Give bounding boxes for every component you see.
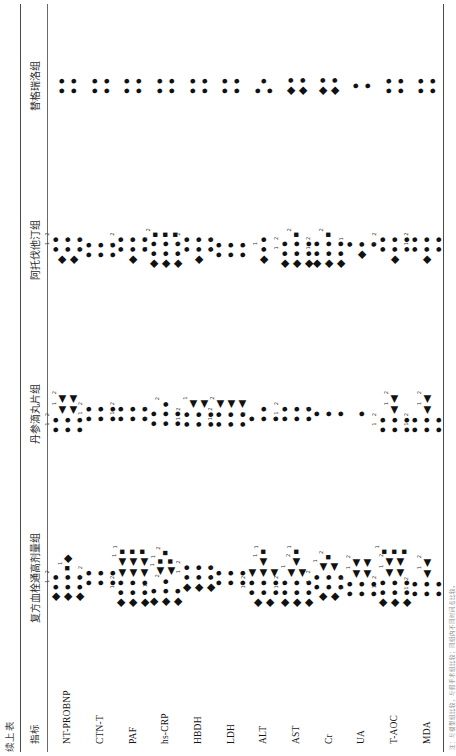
- symbol-stack: ●●: [121, 78, 144, 85]
- cell-symbols: ●●●●: [116, 4, 149, 168]
- circle-marker-icon: ●: [219, 88, 230, 95]
- marker-glyph: ●: [323, 584, 334, 591]
- symbol-stack: ◀2◀: [57, 395, 78, 403]
- marker-glyph: ●: [311, 411, 322, 418]
- marker-glyph: ◀: [128, 558, 138, 566]
- symbol-stack: ◀2◀: [384, 558, 405, 566]
- marker-glyph: ◆: [323, 260, 334, 268]
- marker-glyph: ●: [115, 580, 126, 587]
- cell-symbols: ●●●●: [214, 4, 247, 168]
- marker-glyph: ●: [291, 250, 302, 257]
- marker-glyph: ●: [121, 78, 132, 85]
- circle-marker-icon: ●: [415, 88, 426, 95]
- marker-glyph: ●: [389, 427, 400, 434]
- symbol-stack: ●1●●: [279, 416, 314, 423]
- circle-marker-icon: ●1: [213, 252, 224, 259]
- marker-glyph: ●: [317, 77, 328, 84]
- marker-glyph: ●: [291, 416, 302, 423]
- marker-glyph: ◀: [247, 569, 257, 577]
- circle-marker-icon: ●1: [279, 416, 290, 423]
- table-cell: ●1●●●2●●: [84, 168, 117, 332]
- circle-marker-icon: ●2: [181, 411, 192, 418]
- circle-marker-icon: ●: [362, 83, 373, 90]
- marker-glyph: ●: [231, 88, 242, 95]
- circle-marker-icon: ●2: [311, 241, 322, 248]
- marker-glyph: ◆: [160, 260, 171, 268]
- cell-symbols: ●1●●●2●●●2: [149, 332, 182, 496]
- marker-glyph: ◆: [279, 260, 290, 268]
- marker-glyph: ●: [377, 589, 388, 596]
- triangle-marker-icon: ◀: [117, 569, 127, 577]
- square-marker-icon: ■2: [161, 550, 170, 555]
- symbol-stack: ■1: [292, 549, 301, 554]
- indicator-label: CTN-T: [84, 660, 117, 752]
- circle-marker-icon: ●2: [50, 574, 61, 581]
- marker-glyph: ●: [160, 411, 171, 418]
- circle-marker-icon: ●: [225, 421, 236, 428]
- circle-marker-icon: ●: [291, 589, 302, 596]
- marker-glyph: ●: [115, 406, 126, 413]
- marker-glyph: ●: [433, 591, 444, 598]
- marker-glyph: ●: [246, 589, 257, 596]
- marker-glyph: ●: [148, 420, 159, 427]
- marker-glyph: ●: [213, 242, 224, 249]
- indicator-label: MDA: [410, 660, 443, 752]
- triangle-marker-icon: ◀2: [422, 395, 432, 403]
- circle-marker-icon: ●: [356, 581, 367, 588]
- square-marker-icon: ■1: [63, 566, 72, 571]
- marker-glyph: ◀: [139, 569, 149, 577]
- marker-glyph: ●: [213, 570, 224, 577]
- circle-marker-icon: ●: [395, 78, 406, 85]
- marker-glyph: ●: [279, 580, 290, 587]
- marker-glyph: ●: [193, 421, 204, 428]
- symbol-stack: ◆: [193, 256, 204, 264]
- marker-glyph: ●: [311, 574, 322, 581]
- column-header-indicator: 指标: [21, 660, 47, 752]
- triangle-marker-icon: ◀1: [318, 563, 328, 571]
- circle-marker-icon: ●: [433, 581, 444, 588]
- marker-glyph: ●: [395, 88, 406, 95]
- symbol-stack: ◀1◀: [57, 406, 78, 414]
- circle-marker-icon: ●: [101, 78, 112, 85]
- marker-glyph: ●: [246, 416, 257, 423]
- circle-marker-icon: ●: [127, 580, 138, 587]
- cell-symbols: ●●●●: [84, 4, 117, 168]
- triangle-marker-icon: ◀1: [351, 570, 361, 578]
- circle-marker-icon: ●2: [213, 570, 224, 577]
- marker-glyph: ●: [246, 580, 257, 587]
- square-marker-icon: ■2: [151, 232, 160, 237]
- table-cell: ●1●●●2●●◀1◀2: [410, 332, 443, 496]
- marker-glyph: ◀: [155, 567, 165, 575]
- marker-glyph: ■: [259, 549, 268, 554]
- marker-superscript: 2: [417, 391, 422, 394]
- diamond-marker-icon: ◆: [258, 256, 269, 264]
- symbol-stack: ●2: [160, 578, 171, 585]
- marker-superscript: 2: [110, 576, 115, 579]
- marker-glyph: ●: [181, 246, 192, 253]
- marker-glyph: ●: [193, 564, 204, 571]
- marker-superscript: 2: [78, 566, 83, 569]
- marker-superscript: 2: [346, 555, 351, 558]
- circle-marker-icon: ●1: [344, 241, 355, 248]
- circle-marker-icon: ●: [56, 88, 67, 95]
- marker-glyph: ●: [350, 83, 361, 90]
- square-marker-icon: ■: [128, 549, 137, 554]
- symbol-stack: ◀1: [258, 558, 268, 566]
- marker-glyph: ●: [95, 406, 106, 413]
- marker-glyph: ◀: [318, 563, 328, 571]
- symbol-stack: ■1: [259, 549, 268, 554]
- symbol-stack: ●2●●: [50, 417, 85, 424]
- circle-marker-icon: ●: [56, 78, 67, 85]
- marker-glyph: ◆: [291, 260, 302, 268]
- indicator-label: AST: [280, 660, 313, 752]
- symbol-stack: ●1●●: [181, 421, 216, 428]
- circle-marker-icon: ●: [329, 77, 340, 84]
- marker-glyph: ●: [225, 421, 236, 428]
- symbol-stack: ◀2◀◀: [215, 400, 247, 408]
- marker-glyph: ●: [433, 427, 444, 434]
- symbol-stack: ◀1◀: [318, 563, 339, 571]
- table-caption: 续上表: [2, 721, 16, 753]
- indicator-label: Cr: [312, 660, 345, 752]
- table-cell: ●1●●●2●●◀1◀2: [410, 496, 443, 660]
- diamond-marker-icon: ◆: [148, 598, 159, 606]
